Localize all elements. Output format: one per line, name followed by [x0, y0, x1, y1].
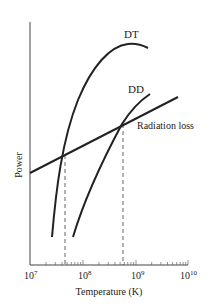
dd-curve	[73, 94, 150, 237]
x-minor-ticks	[46, 260, 188, 265]
x-tick-1e7: 107	[24, 269, 38, 281]
x-tick-1e10: 1010	[180, 269, 198, 281]
dd-label: DD	[128, 83, 144, 95]
chart-canvas: DT DD Radiation loss Power 107 108 109 1…	[0, 0, 209, 305]
x-tick-labels: 107 108 109 1010	[24, 269, 198, 281]
y-axis-label: Power	[13, 152, 24, 178]
x-tick-1e8: 108	[78, 269, 92, 281]
x-axis-label: Temperature (K)	[76, 286, 143, 298]
dt-label: DT	[124, 28, 139, 40]
dt-curve	[52, 44, 148, 237]
x-tick-1e9: 109	[131, 269, 145, 281]
radiation-loss-label: Radiation loss	[137, 120, 194, 131]
